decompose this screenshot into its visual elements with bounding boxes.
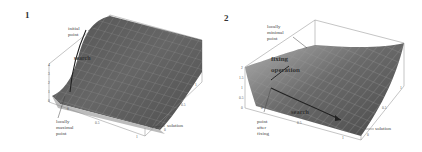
x-tick: 0 <box>261 106 263 110</box>
y-tick: 1 <box>195 83 197 87</box>
label-solution: solution <box>375 126 391 132</box>
label-locally-minimal-point: locally minimal point <box>267 24 284 42</box>
label-fixing-operation: fixing operation <box>271 54 300 76</box>
x-tick: 0.5 <box>297 121 301 125</box>
label-search: search <box>74 55 91 61</box>
label-solution: solution <box>167 123 183 129</box>
label-search: search <box>291 108 309 115</box>
figure-panel-2: 2 <box>211 0 422 152</box>
x-tick: 0.5 <box>95 121 99 125</box>
z-tick: 2 <box>48 81 50 85</box>
z-tick: 0.5 <box>239 96 243 100</box>
label-locally-maximal-point: locally maximal point <box>56 119 74 137</box>
z-tick: 0 <box>241 106 243 110</box>
z-tick: 4 <box>48 63 50 67</box>
z-tick: 1 <box>48 90 50 94</box>
z-tick: 1.5 <box>239 76 243 80</box>
y-tick: 0.5 <box>181 103 185 107</box>
x-tick: 1 <box>136 135 138 139</box>
surface-plot-1 <box>0 0 211 152</box>
z-tick: 3 <box>48 72 50 76</box>
z-tick: 2 <box>241 66 243 70</box>
y-tick: 1 <box>400 86 402 90</box>
x-tick: 1 <box>342 136 344 140</box>
z-tick: 0 <box>48 99 50 103</box>
figure-panel-1: 1 <box>0 0 211 152</box>
label-initial-point: initial point <box>68 26 80 38</box>
x-tick: 0 <box>67 107 69 111</box>
y-tick: 0 <box>367 133 369 137</box>
y-tick: 0 <box>164 128 166 132</box>
z-tick: 1 <box>241 86 243 90</box>
label-point-after-fixing: point after fixing <box>257 119 269 137</box>
y-tick: 0.5 <box>382 106 386 110</box>
